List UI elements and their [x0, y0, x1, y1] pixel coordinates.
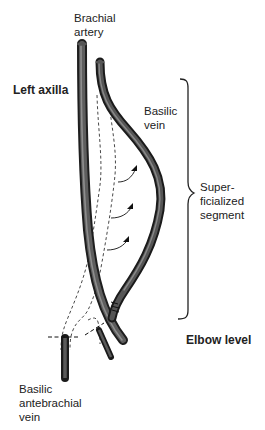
superficialized-segment-bracket: [178, 79, 194, 319]
label-superficialized-segment: Super- ficialized segment: [200, 180, 244, 222]
label-brachial-artery: Brachial artery: [74, 11, 116, 39]
basilic-vein: [96, 60, 161, 318]
basilic-antebrachial-vein-stump: [65, 330, 111, 378]
arrowheads: [123, 165, 137, 242]
label-left-axilla: Left axilla: [13, 83, 68, 97]
label-basilic-vein: Basilic vein: [144, 104, 177, 132]
label-basilic-antebrachial-vein: Basilic antebrachial vein: [19, 382, 82, 424]
label-elbow-level: Elbow level: [186, 333, 251, 347]
